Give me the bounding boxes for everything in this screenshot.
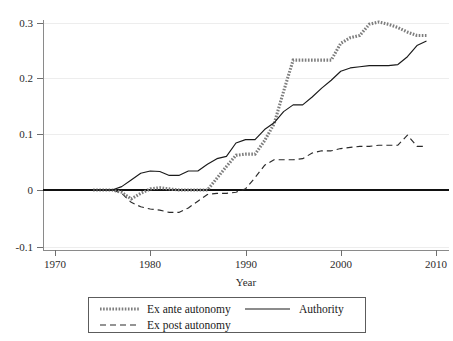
- y-tick-label-0: 0: [28, 184, 34, 196]
- legend-label-authority: Authority: [299, 303, 344, 316]
- legend-label-ex-ante-autonomy: Ex ante autonomy: [147, 303, 231, 316]
- chart-figure: 0.3 0.2 0.1 0 -0.1 1970 1980 1990 2000 2…: [0, 0, 453, 341]
- y-tick-label-0.2: 0.2: [19, 72, 33, 84]
- x-axis-title: Year: [236, 276, 257, 288]
- x-tick-label-1980: 1980: [139, 258, 162, 270]
- x-tick-label-2000: 2000: [330, 258, 353, 270]
- legend-label-ex-post-autonomy: Ex post autonomy: [147, 319, 231, 332]
- gridlines: [43, 23, 449, 247]
- x-tick-label-1970: 1970: [44, 258, 67, 270]
- x-tick-label-1990: 1990: [235, 258, 258, 270]
- line-chart-svg: 0.3 0.2 0.1 0 -0.1 1970 1980 1990 2000 2…: [0, 0, 453, 341]
- x-tick-label-2010: 2010: [425, 258, 448, 270]
- y-tick-label-0.3: 0.3: [19, 17, 33, 29]
- y-tick-marks: [37, 23, 43, 247]
- chart-legend: Ex ante autonomy Authority Ex post auton…: [89, 298, 366, 333]
- y-tick-label-0.1: 0.1: [19, 128, 33, 140]
- series-group: [93, 22, 426, 212]
- y-tick-label--0.1: -0.1: [16, 241, 33, 253]
- series-line-authority: [93, 41, 426, 190]
- x-tick-marks: [55, 250, 436, 256]
